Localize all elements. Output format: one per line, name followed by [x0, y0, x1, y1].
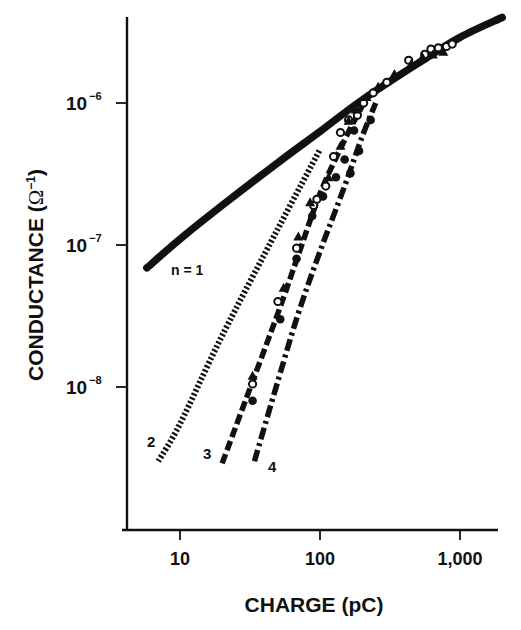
- curve-label-2: 2: [147, 433, 155, 450]
- filled-circle-marker: [276, 315, 285, 324]
- y-tick-label: 10−6: [66, 90, 102, 114]
- model-curves: [147, 18, 502, 464]
- filled-circle-marker: [319, 192, 328, 201]
- conductance-vs-charge-chart: 101001,00010−810−710−6 n = 1 2 3 4 CHARG…: [0, 0, 521, 630]
- curve-label-n1: n = 1: [171, 262, 204, 278]
- open-circle-marker: [274, 298, 281, 305]
- filled-triangle-marker: [293, 231, 303, 240]
- filled-circle-marker: [248, 396, 257, 405]
- open-circle-marker: [449, 40, 456, 47]
- filled-circle-marker: [292, 254, 301, 263]
- y-axis-title: CONDUCTANCE (Ω−1): [24, 169, 48, 381]
- open-circle-marker: [435, 44, 442, 51]
- data-markers: [248, 40, 456, 405]
- axis-ticks: [116, 103, 460, 540]
- filled-circle-marker: [350, 126, 359, 135]
- curve-n4: [254, 103, 375, 461]
- filled-circle-marker: [340, 155, 349, 164]
- curve-n1: [147, 18, 502, 268]
- open-circle-marker: [330, 153, 337, 160]
- curve-label-4: 4: [268, 458, 277, 475]
- y-tick-label: 10−8: [66, 374, 102, 398]
- open-circle-marker: [293, 245, 300, 252]
- open-circle-marker: [337, 129, 344, 136]
- filled-circle-marker: [355, 147, 364, 156]
- filled-triangle-marker: [248, 371, 258, 380]
- y-axis-title-exponent: −1: [24, 176, 38, 190]
- y-axis-title-main: CONDUCTANCE (: [24, 205, 47, 381]
- curve-label-3: 3: [203, 445, 211, 462]
- filled-circle-marker: [308, 212, 317, 221]
- x-axis-title: CHARGE (pC): [245, 593, 384, 616]
- open-circle-marker: [383, 79, 390, 86]
- y-tick-label: 10−7: [66, 232, 102, 256]
- open-circle-marker: [322, 182, 329, 189]
- x-tick-label: 1,000: [437, 549, 482, 569]
- omega-symbol: Ω: [24, 190, 48, 206]
- open-circle-marker: [249, 380, 256, 387]
- filled-circle-marker: [366, 116, 375, 125]
- filled-circle-marker: [346, 169, 355, 178]
- x-tick-label: 10: [170, 549, 190, 569]
- y-axis-title-close: ): [24, 169, 47, 176]
- x-tick-label: 100: [305, 549, 335, 569]
